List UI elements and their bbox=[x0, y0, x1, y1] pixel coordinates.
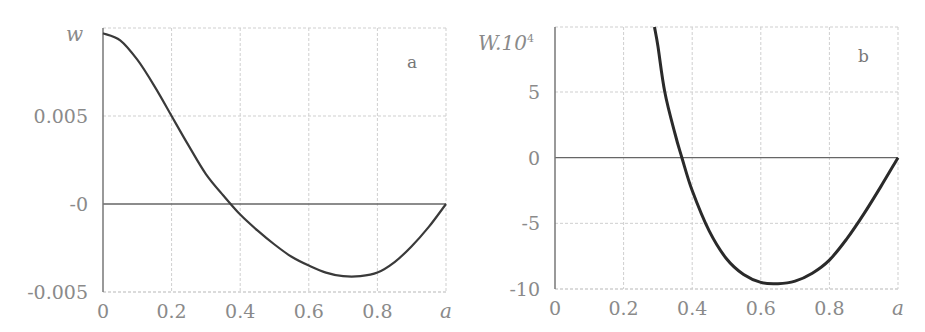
chart-a-plot: -0.005-00.00500.20.40.60.8awa bbox=[0, 0, 460, 332]
x-tick-label: 0.6 bbox=[746, 297, 776, 319]
x-tick-label: 0.8 bbox=[814, 297, 844, 319]
y-tick-label: 5 bbox=[528, 81, 540, 103]
x-tick-label: 0.6 bbox=[294, 300, 324, 322]
x-tick-label: 0.4 bbox=[677, 297, 707, 319]
data-curve bbox=[103, 33, 446, 276]
x-tick-label: 0.8 bbox=[362, 300, 392, 322]
y-axis-label: w bbox=[66, 22, 83, 46]
y-axis-label: W.104 bbox=[478, 31, 534, 55]
y-tick-label: -5 bbox=[521, 212, 540, 234]
chart-b-plot: -10-50500.20.40.60.8aW.104b bbox=[460, 0, 925, 332]
x-axis-label: a bbox=[892, 296, 904, 320]
x-tick-label: 0.2 bbox=[156, 300, 186, 322]
x-tick-label: 0.4 bbox=[225, 300, 255, 322]
x-tick-label: 0.2 bbox=[608, 297, 638, 319]
x-tick-label: 0 bbox=[549, 297, 561, 319]
x-tick-label: 0 bbox=[97, 300, 109, 322]
x-axis-label: a bbox=[440, 299, 452, 323]
y-tick-label: 0.005 bbox=[34, 105, 88, 127]
y-tick-label: 0 bbox=[528, 147, 540, 169]
chart-panel-b: -10-50500.20.40.60.8aW.104b bbox=[460, 0, 925, 332]
panel-label: b bbox=[858, 46, 869, 66]
panel-label: a bbox=[407, 52, 417, 72]
y-tick-label: -0.005 bbox=[27, 281, 88, 303]
y-tick-label: -0 bbox=[69, 193, 88, 215]
chart-panel-a: -0.005-00.00500.20.40.60.8awa bbox=[0, 0, 460, 332]
y-tick-label: -10 bbox=[509, 278, 540, 300]
